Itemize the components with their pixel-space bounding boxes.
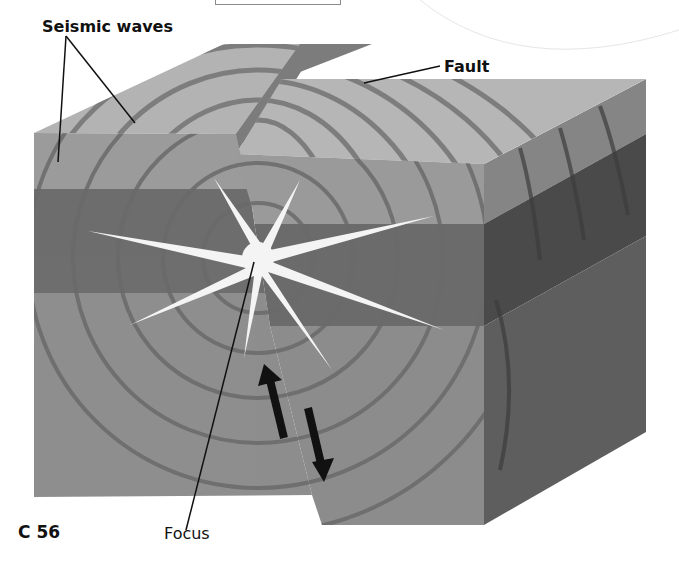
fault-diagram: Seismic waves Fault Focus C 56 bbox=[0, 0, 679, 573]
background-curve bbox=[420, 0, 679, 49]
block-diagram-svg bbox=[0, 0, 679, 573]
page-number: C 56 bbox=[18, 522, 60, 542]
seismic-waves-label: Seismic waves bbox=[42, 17, 173, 36]
focus-label: Focus bbox=[164, 524, 210, 543]
fault-label: Fault bbox=[444, 57, 489, 76]
